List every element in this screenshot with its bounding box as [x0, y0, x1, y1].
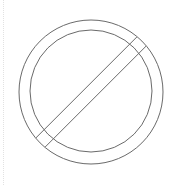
inner-circle: [30, 30, 152, 152]
slash-band-edge-upper: [8, 8, 180, 184]
outer-circle: [19, 20, 163, 164]
slash-band-edge-lower: [0, 0, 175, 175]
diagonal-slash-band: [0, 0, 180, 184]
drawing-canvas: Prohibition sign outline: two concentric…: [0, 0, 180, 185]
prohibition-sign-figure: Prohibition sign outline: two concentric…: [0, 0, 180, 185]
